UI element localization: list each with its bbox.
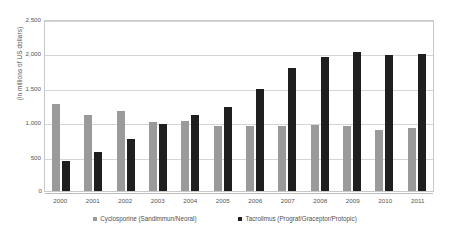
bar-group	[336, 21, 368, 191]
bar	[62, 161, 70, 191]
bar-group	[77, 21, 109, 191]
bar	[321, 57, 329, 191]
legend-swatch-icon	[93, 217, 97, 221]
x-tick-label: 2004	[174, 194, 207, 208]
bar	[84, 115, 92, 191]
bar-group	[142, 21, 174, 191]
bar	[191, 115, 199, 191]
bar	[52, 104, 60, 191]
bar	[408, 128, 416, 191]
y-tick-label: 2,000	[1, 51, 41, 57]
bar	[117, 111, 125, 191]
plot-area	[44, 20, 434, 192]
bar-group	[271, 21, 303, 191]
x-tick-label: 2008	[304, 194, 337, 208]
chart-legend: Cyclosporine (Sandimmun/Neoral)Tacrolimu…	[0, 216, 450, 222]
bar	[94, 152, 102, 191]
y-tick-label: 1,500	[1, 86, 41, 92]
bar	[311, 125, 319, 191]
bar	[246, 126, 254, 191]
x-tick-label: 2001	[77, 194, 110, 208]
x-tick-label: 2002	[109, 194, 142, 208]
bar	[375, 130, 383, 191]
x-tick-label: 2010	[369, 194, 402, 208]
bar	[214, 126, 222, 191]
legend-item: Tacrolimus (Prograf/Graceptor/Protopic)	[238, 216, 356, 222]
bar	[353, 52, 361, 191]
bar-group	[110, 21, 142, 191]
x-tick-label: 2009	[337, 194, 370, 208]
bar-groups	[45, 21, 433, 191]
y-tick-label-zero: 0	[28, 188, 42, 194]
x-tick-label: 2006	[239, 194, 272, 208]
y-tick-label: 2,500	[1, 17, 41, 23]
legend-swatch-icon	[238, 217, 242, 221]
bar	[159, 124, 167, 191]
x-tick-label: 2011	[402, 194, 435, 208]
bar	[385, 55, 393, 191]
y-tick-label: 1,000	[1, 120, 41, 126]
x-tick-label: 2000	[44, 194, 77, 208]
bar-chart: (in millions of US dollars) 0 5001,0001,…	[0, 0, 450, 236]
legend-item: Cyclosporine (Sandimmun/Neoral)	[93, 216, 196, 222]
x-tick-label: 2003	[142, 194, 175, 208]
bar-group	[174, 21, 206, 191]
bar-group	[368, 21, 400, 191]
bar	[418, 54, 426, 191]
bar	[288, 68, 296, 191]
bar	[278, 126, 286, 191]
y-tick-label: 500	[1, 155, 41, 161]
x-tick-label: 2007	[272, 194, 305, 208]
bar	[181, 121, 189, 191]
bar-group	[45, 21, 77, 191]
x-tick-label: 2005	[207, 194, 240, 208]
bar	[343, 126, 351, 191]
bar	[149, 122, 157, 191]
bar	[224, 107, 232, 191]
legend-label: Cyclosporine (Sandimmun/Neoral)	[100, 216, 196, 222]
bar-group	[401, 21, 433, 191]
bar-group	[207, 21, 239, 191]
bar	[256, 89, 264, 191]
bar-group	[239, 21, 271, 191]
x-axis-ticks: 2000200120022003200420052006200720082009…	[44, 194, 434, 208]
legend-label: Tacrolimus (Prograf/Graceptor/Protopic)	[245, 216, 356, 222]
bar-group	[304, 21, 336, 191]
bar	[127, 139, 135, 191]
